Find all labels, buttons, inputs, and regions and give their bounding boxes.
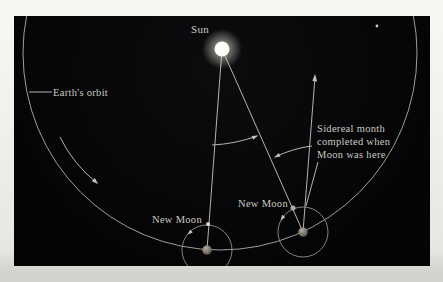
sun-angle-arc bbox=[212, 136, 257, 145]
sun-icon bbox=[215, 42, 230, 57]
earth-icon-right bbox=[298, 227, 307, 236]
earths-orbit-label: Earth's orbit bbox=[53, 86, 108, 99]
earth-direction-arrow-curve bbox=[60, 137, 97, 183]
new-moon-label-left: New Moon bbox=[152, 213, 202, 226]
moon-icon-left bbox=[206, 222, 209, 225]
sun-angle-arrowhead-icon bbox=[252, 136, 258, 140]
sidereal-note: Sidereal month completed when Moon was h… bbox=[317, 122, 390, 161]
sidereal-note-line-3: Moon was here bbox=[317, 148, 390, 161]
sidereal-note-line-2: completed when bbox=[317, 135, 390, 148]
sidereal-note-line-1: Sidereal month bbox=[317, 122, 390, 135]
earth-icon-left bbox=[202, 245, 211, 254]
book-page: Sun Earth's orbit New Moon New Moon Side… bbox=[0, 0, 443, 282]
sun-label: Sun bbox=[191, 23, 209, 36]
sun-earth-line-left bbox=[207, 49, 222, 250]
diagram-panel: Sun Earth's orbit New Moon New Moon Side… bbox=[14, 16, 430, 266]
earth2-angle-arrowhead-icon bbox=[274, 153, 281, 158]
moon-icon-right bbox=[291, 206, 296, 211]
earth-direction-arrowhead-icon bbox=[92, 178, 98, 184]
distant-star-icon bbox=[376, 25, 379, 28]
earth2-angle-arc bbox=[275, 146, 312, 157]
star-direction-arrowhead-icon bbox=[312, 74, 317, 81]
new-moon-label-right: New Moon bbox=[238, 197, 288, 210]
